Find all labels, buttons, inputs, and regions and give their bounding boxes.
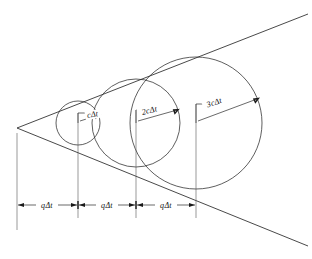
dim-arrowhead-1-left <box>18 203 24 207</box>
dim-arrowhead-3-right <box>189 203 195 207</box>
mach-line-lower <box>17 128 308 246</box>
dim-arrowhead-3-left <box>137 203 143 207</box>
radius-arrowhead-2 <box>174 110 179 114</box>
figure-canvas: cΔt 2cΔt 3cΔt qΔt qΔt qΔt qΔt qΔt qΔt <box>0 0 312 259</box>
radius-arrowhead-3 <box>254 98 259 102</box>
mach-cone-diagram: cΔt 2cΔt 3cΔt qΔt qΔt qΔt qΔt qΔt qΔt <box>0 0 312 259</box>
dimension-label-2-text: qΔt <box>101 201 113 210</box>
dim-arrowhead-2-right <box>129 203 135 207</box>
dimension-label-3-text: qΔt <box>160 201 172 210</box>
radius-leaders <box>78 98 258 123</box>
dim-arrowhead-2-left <box>79 203 85 207</box>
mach-cone-lines <box>17 14 308 246</box>
dimension-labels-top: qΔt qΔt qΔt <box>41 201 172 210</box>
wavefront-circles <box>56 57 262 189</box>
dimension-label-1-text: qΔt <box>41 201 53 210</box>
extension-lines <box>17 104 196 230</box>
dim-arrowhead-1-right <box>71 203 77 207</box>
radius-label-2-text: 2cΔt <box>141 104 159 117</box>
